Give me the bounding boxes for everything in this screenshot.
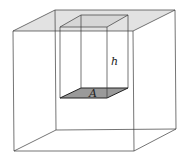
outer-cube-front-right-edge: [133, 31, 134, 151]
height-label: h: [111, 55, 118, 68]
outer-cube-front-left-edge: [13, 31, 14, 151]
outer-cube-bottom-right-diag: [134, 129, 176, 151]
diagram: h A: [0, 0, 186, 159]
outer-cube-bottom-left-diag: [14, 130, 56, 151]
outer-cube-back-right-edge: [175, 10, 176, 129]
outer-cube-back-bottom-edge: [56, 129, 176, 130]
area-label: A: [88, 87, 97, 100]
